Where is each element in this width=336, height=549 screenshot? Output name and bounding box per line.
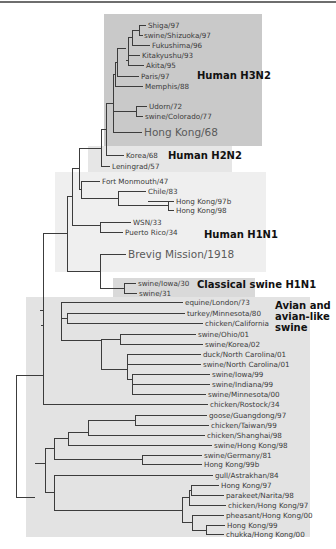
leaf-label: turkey/Minnesota/80 [187,309,261,318]
leaf-label: duck/North Carolina/01 [203,350,286,359]
leaf-label: Kitakyushu/93 [142,51,193,60]
leaf-label: pheasant/Hong Kong/00 [226,511,313,520]
leaf-label: goose/Guangdong/97 [209,411,286,420]
leaf-label: Puerto Rico/34 [125,228,178,237]
leaf-label: Hong Kong/99b [204,460,260,469]
leaf-label: Chile/83 [148,187,178,196]
leaf-label: swine/Iowa/30 [138,279,190,288]
leaf-label: chicken/Shanghai/98 [207,431,282,440]
leaf-label: Hong Kong/68 [144,126,218,138]
leaf-label: Leningrad/57 [112,162,159,171]
leaf-label: Brevig Mission/1918 [128,248,234,260]
leaf-label: Korea/68 [126,151,158,160]
leaf-label: swine/Germany/81 [204,451,272,460]
leaf-label: swine/Shizuoka/97 [144,31,211,40]
clade-label-h3n2: Human H3N2 [197,70,271,81]
leaf-label: Akita/95 [146,61,176,70]
leaf-label: swine/Ohio/01 [198,330,249,339]
clade-label-classical: Classical swine H1N1 [197,279,316,290]
leaf-label: chicken/Rostock/34 [210,400,280,409]
leaf-label: Memphis/88 [145,82,189,91]
leaf-label: swine/North Carolina/01 [203,360,290,369]
clade-label-h1n1: Human H1N1 [204,229,278,240]
leaf-label: chicken/Hong Kong/97 [228,501,308,510]
phylogenetic-tree: Shiga/97swine/Shizuoka/97Fukushima/96Kit… [0,0,336,549]
leaf-label: swine/Hong Kong/98 [214,441,288,450]
leaf-label: parakeet/Narita/98 [226,491,294,500]
leaf-label: swine/31 [139,289,171,298]
leaf-label: swine/Colorado/77 [145,112,212,121]
leaf-label: swine/Minnesota/00 [208,390,280,399]
leaf-label: Udorn/72 [149,102,182,111]
leaf-label: WSN/33 [133,218,162,227]
leaf-label: Hong Kong/97b [176,197,232,206]
leaf-label: swine/Iowa/99 [212,370,264,379]
leaf-label: chukka/Hong Kong/00 [226,530,305,539]
leaf-label: Paris/97 [141,72,170,81]
leaf-label: Hong Kong/98 [176,206,227,215]
leaf-label: swine/Korea/02 [205,340,260,349]
leaf-label: Fort Monmouth/47 [102,177,168,186]
leaf-label: equine/London/73 [185,298,250,307]
leaf-label: Hong Kong/99 [227,521,278,530]
clade-label-h2n2: Human H2N2 [168,150,242,161]
leaf-label: chicken/Taiwan/99 [211,421,277,430]
clade-label-avian: Avian andavian-likeswine [275,300,331,333]
leaf-label: chicken/California [205,319,269,328]
leaf-label: Hong Kong/97 [221,481,272,490]
leaf-label: Fukushima/96 [152,41,202,50]
leaf-label: gull/Astrakhan/84 [215,471,279,480]
leaf-label: Shiga/97 [148,21,180,30]
leaf-label: swine/Indiana/99 [212,380,274,389]
